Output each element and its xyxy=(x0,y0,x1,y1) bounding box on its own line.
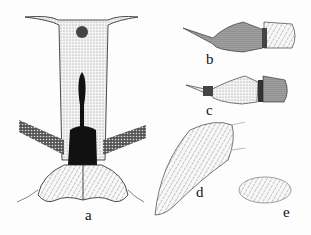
label-b: b xyxy=(206,52,214,67)
label-a: a xyxy=(85,208,92,223)
part-a-drawing xyxy=(17,16,146,202)
label-c: c xyxy=(206,103,213,118)
illustration xyxy=(0,0,311,235)
part-e-drawing xyxy=(239,177,291,203)
part-b-drawing xyxy=(183,22,295,52)
label-e: e xyxy=(283,205,290,220)
part-d-drawing xyxy=(155,122,245,215)
scientific-figure: a b c d e xyxy=(0,0,311,235)
label-d: d xyxy=(196,185,204,200)
part-c-drawing xyxy=(186,76,287,104)
